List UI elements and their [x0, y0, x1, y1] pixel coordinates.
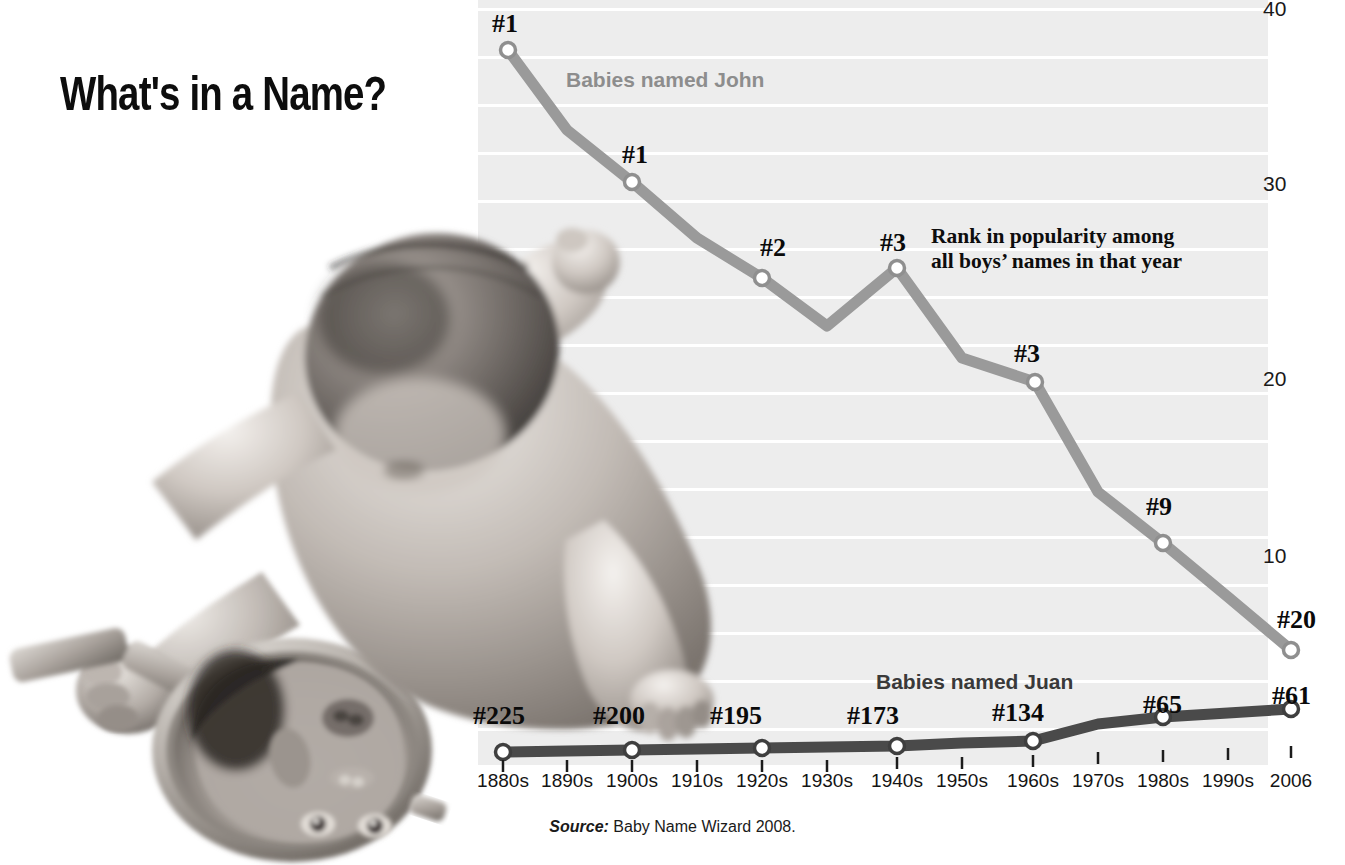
x-label-1910s: 1910s	[671, 770, 723, 792]
juan-label-1980s: #65	[1143, 690, 1182, 720]
john-label-1980s: #9	[1146, 492, 1172, 522]
gridline-minor-1	[478, 56, 1268, 59]
x-label-1970s: 1970s	[1072, 770, 1124, 792]
x-label-1890s: 1890s	[541, 770, 593, 792]
juan-label-2006: #61	[1272, 681, 1311, 711]
infographic-root: What's in a Name? 40 30 20 10 Babies nam…	[0, 0, 1345, 865]
gridline-minor-11	[478, 680, 1268, 683]
gridline-minor-5	[478, 296, 1268, 299]
x-label-1940s: 1940s	[871, 770, 923, 792]
gridline-20	[478, 392, 1268, 395]
gridline-10	[478, 584, 1268, 587]
juan-label-1940s: #173	[847, 701, 899, 731]
juan-label-1960s: #134	[992, 698, 1044, 728]
y-tick-20: 20	[1263, 367, 1286, 391]
gridline-minor-10	[478, 632, 1268, 635]
chart-annotation-line2: all boys’ names in that year	[931, 249, 1182, 274]
gridline-minor-8	[478, 488, 1268, 491]
baby-with-mirror-photo	[0, 210, 520, 865]
x-label-1980s: 1980s	[1137, 770, 1189, 792]
x-label-1990s: 1990s	[1202, 770, 1254, 792]
y-tick-30: 30	[1263, 172, 1286, 196]
y-tick-40: 40	[1263, 0, 1286, 21]
x-label-1900s: 1900s	[606, 770, 658, 792]
john-label-1900s: #1	[622, 140, 648, 170]
x-label-1880s: 1880s	[477, 770, 529, 792]
chart-annotation: Rank in popularity among all boys’ names…	[931, 224, 1182, 274]
source-prefix: Source:	[549, 818, 609, 835]
john-label-1920s: #2	[760, 233, 786, 263]
gridline-minor-6	[478, 344, 1268, 347]
x-label-1930s: 1930s	[801, 770, 853, 792]
john-label-2006: #20	[1277, 605, 1316, 635]
gridline-minor-2	[478, 104, 1268, 107]
x-label-1920s: 1920s	[736, 770, 788, 792]
plot-background	[478, 0, 1268, 765]
page-title: What's in a Name?	[60, 66, 386, 121]
y-tick-10: 10	[1263, 544, 1286, 568]
chart-annotation-line1: Rank in popularity among	[931, 224, 1182, 249]
source-text: Baby Name Wizard 2008.	[613, 818, 795, 835]
gridline-minor-3	[478, 152, 1268, 155]
juan-label-1920s: #195	[710, 701, 762, 731]
john-point-2006	[1284, 643, 1299, 658]
john-label-1960s: #3	[1014, 339, 1040, 369]
gridline-40	[478, 8, 1268, 11]
source-note: Source: Baby Name Wizard 2008.	[0, 818, 1345, 836]
gridline-minor-7	[478, 440, 1268, 443]
series-label-john: Babies named John	[566, 68, 764, 92]
gridline-minor-9	[478, 536, 1268, 539]
series-label-juan: Babies named Juan	[876, 670, 1073, 694]
john-label-1880s: #1	[492, 9, 518, 39]
x-label-1960s: 1960s	[1007, 770, 1059, 792]
x-label-1950s: 1950s	[936, 770, 988, 792]
juan-label-1900s: #200	[593, 701, 645, 731]
chart-area	[478, 0, 1268, 765]
x-label-2006: 2006	[1270, 770, 1312, 792]
juan-label-1880s: #225	[473, 701, 525, 731]
john-label-1940s: #3	[880, 228, 906, 258]
gridline-30	[478, 200, 1268, 203]
